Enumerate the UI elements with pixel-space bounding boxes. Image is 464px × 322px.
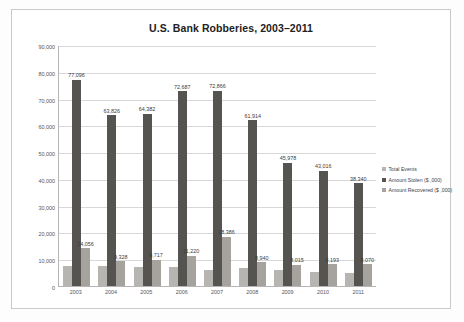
bar: 38,340	[354, 183, 363, 286]
legend-label: Amount Recovered ($ ,000)	[389, 187, 453, 193]
x-axis-tick-label: 2008	[235, 289, 270, 295]
bar	[98, 266, 107, 286]
bar-group: 72,86618,386	[200, 46, 235, 286]
bar: 18,386	[222, 237, 231, 286]
y-axis-tick-label: 10,000	[39, 258, 56, 264]
bar-group: 43,0168,193	[306, 46, 341, 286]
legend-item[interactable]: Amount Recovered ($ ,000)	[382, 187, 464, 193]
x-axis-tick-label: 2004	[93, 289, 128, 295]
bar	[239, 268, 248, 286]
bar: 64,382	[143, 114, 152, 286]
legend-swatch-icon	[382, 167, 386, 171]
bar-value-label: 43,016	[315, 163, 332, 169]
legend-swatch-icon	[382, 188, 386, 192]
bar-value-label: 9,328	[114, 254, 128, 260]
x-axis-labels: 200320042005200620072008200920102011	[58, 289, 376, 295]
bar: 77,096	[72, 80, 81, 286]
y-axis-tick-label: 0	[52, 285, 55, 291]
y-axis-tick-label: 40,000	[39, 178, 56, 184]
bar-value-label: 63,826	[104, 108, 121, 114]
chart-container: U.S. Bank Robberies, 2003–2011 90,00080,…	[11, 9, 451, 309]
bar-value-label: 64,382	[139, 106, 156, 112]
bar-value-label: 14,056	[77, 241, 94, 247]
bar-value-label: 77,096	[68, 72, 85, 78]
bar-value-label: 72,866	[209, 83, 226, 89]
bar: 72,866	[213, 91, 222, 286]
legend-item[interactable]: Total Events	[382, 166, 464, 172]
x-axis-tick-label: 2011	[341, 289, 376, 295]
bar-group: 64,3829,717	[129, 46, 164, 286]
bar-value-label: 45,978	[280, 155, 297, 161]
bar: 11,220	[187, 256, 196, 286]
bar-group: 77,09614,056	[59, 46, 94, 286]
bar-group: 45,9788,015	[270, 46, 305, 286]
bar	[274, 270, 283, 286]
bar-group: 63,8269,328	[94, 46, 129, 286]
screenshot-canvas: U.S. Bank Robberies, 2003–2011 90,00080,…	[0, 0, 464, 322]
gridline: 0	[59, 287, 376, 288]
y-axis-tick-label: 30,000	[39, 205, 56, 211]
bar: 9,717	[152, 260, 161, 286]
plot-area: 90,00080,00070,00060,00050,00040,00030,0…	[58, 46, 376, 287]
bar: 43,016	[319, 171, 328, 286]
chart-title: U.S. Bank Robberies, 2003–2011	[12, 22, 450, 34]
x-axis-tick-label: 2007	[199, 289, 234, 295]
y-axis-tick-label: 20,000	[39, 231, 56, 237]
bar-group: 72,68711,220	[165, 46, 200, 286]
x-axis-tick-label: 2003	[58, 289, 93, 295]
bar-value-label: 61,914	[244, 113, 261, 119]
bar: 61,914	[248, 120, 257, 286]
bar-value-label: 8,193	[325, 257, 339, 263]
bar-groups: 77,09614,05663,8269,32864,3829,71772,687…	[59, 46, 376, 286]
bar-group: 61,9148,940	[235, 46, 270, 286]
x-axis-tick-label: 2010	[305, 289, 340, 295]
bar: 8,070	[363, 264, 372, 286]
bar: 8,940	[257, 262, 266, 286]
bar	[63, 266, 72, 286]
bar-value-label: 38,340	[350, 176, 367, 182]
bar: 8,015	[292, 265, 301, 286]
bar	[204, 270, 213, 286]
bar	[169, 267, 178, 286]
y-axis-tick-label: 80,000	[39, 71, 56, 77]
bar-value-label: 18,386	[218, 229, 235, 235]
bar-value-label: 9,717	[149, 252, 163, 258]
bar-value-label: 8,015	[290, 257, 304, 263]
bar: 45,978	[283, 163, 292, 286]
chart-legend: Total EventsAmount Stolen ($ ,000)Amount…	[382, 166, 464, 198]
x-axis-tick-label: 2009	[270, 289, 305, 295]
y-axis-tick-label: 70,000	[39, 98, 56, 104]
bar-value-label: 8,940	[255, 255, 269, 261]
bar: 14,056	[81, 248, 90, 286]
y-axis-tick-label: 60,000	[39, 124, 56, 130]
bar-group: 38,3408,070	[341, 46, 376, 286]
y-axis-tick-label: 90,000	[39, 44, 56, 50]
legend-label: Amount Stolen ($ ,000)	[389, 177, 442, 183]
x-axis-tick-label: 2006	[164, 289, 199, 295]
legend-item[interactable]: Amount Stolen ($ ,000)	[382, 177, 464, 183]
bar: 9,328	[116, 261, 125, 286]
bar-value-label: 8,070	[361, 257, 375, 263]
bar	[134, 267, 143, 286]
bar-value-label: 72,687	[174, 84, 191, 90]
bar: 63,826	[107, 115, 116, 286]
y-axis-tick-label: 50,000	[39, 151, 56, 157]
legend-label: Total Events	[389, 166, 417, 172]
x-axis-tick-label: 2005	[129, 289, 164, 295]
bar	[310, 272, 319, 286]
legend-swatch-icon	[382, 178, 386, 182]
bar-value-label: 11,220	[183, 248, 199, 254]
bar: 72,687	[178, 91, 187, 286]
bar: 8,193	[328, 264, 337, 286]
bar	[345, 273, 354, 286]
